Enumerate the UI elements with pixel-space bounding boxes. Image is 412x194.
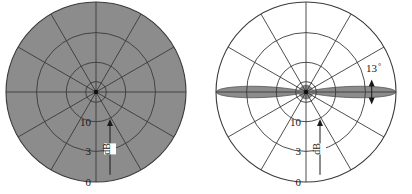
polar-center-point bbox=[94, 90, 98, 94]
polar-antenna-pattern-figure: 0310dB0310dB13° bbox=[0, 0, 412, 194]
radial-tick-label: 3 bbox=[296, 145, 302, 157]
radial-tick-label: 0 bbox=[296, 176, 302, 188]
degree-symbol: ° bbox=[378, 62, 381, 71]
radial-tick-label: 10 bbox=[80, 116, 92, 128]
polar-center-point bbox=[304, 90, 308, 94]
radial-tick-label: 3 bbox=[86, 145, 92, 157]
figure-canvas: 0310dB0310dB13° bbox=[0, 0, 412, 194]
radial-unit-label: dB bbox=[311, 143, 322, 155]
radial-unit-label: dB bbox=[101, 143, 112, 155]
radial-tick-label: 0 bbox=[86, 176, 92, 188]
radial-tick-label: 10 bbox=[290, 116, 302, 128]
